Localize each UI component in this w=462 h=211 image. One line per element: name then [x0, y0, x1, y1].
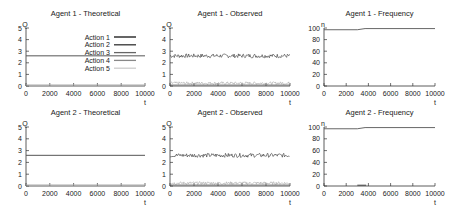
x-tick-label: 4000 — [66, 190, 82, 197]
panel-a1-theo: Agent 1 - Theoretical0123450200040006000… — [18, 9, 155, 106]
x-axis-label: t — [289, 199, 291, 206]
x-tick-label: 6000 — [90, 90, 106, 97]
y-axis-label: Q — [22, 120, 28, 128]
series-other-actions — [170, 82, 290, 85]
x-tick-label: 10000 — [135, 190, 155, 197]
x-tick-label: 6000 — [234, 90, 250, 97]
panel-title: Agent 2 - Frequency — [346, 108, 414, 117]
panel-title: Agent 1 - Observed — [197, 9, 262, 18]
x-tick-label: 0 — [24, 190, 28, 197]
legend-label: Action 1 — [85, 34, 110, 41]
legend-label: Action 2 — [85, 41, 110, 48]
y-tick-label: 4 — [162, 36, 166, 43]
x-tick-label: 10000 — [425, 190, 445, 197]
x-tick-label: 2000 — [338, 190, 354, 197]
legend: Action 1Action 2Action 3Action 4Action 5 — [85, 34, 136, 72]
y-tick-label: 1 — [162, 171, 166, 178]
y-tick-label: 2 — [162, 159, 166, 166]
y-tick-label: 20 — [312, 171, 320, 178]
y-tick-label: 4 — [18, 135, 22, 142]
y-axis-label: Q — [166, 21, 172, 29]
y-tick-label: 1 — [18, 171, 22, 178]
panel-a2-theo: Agent 2 - Theoretical0123450200040006000… — [18, 108, 155, 206]
y-tick-label: 0 — [18, 83, 22, 90]
y-tick-label: 2 — [18, 59, 22, 66]
x-tick-label: 2000 — [186, 190, 202, 197]
x-tick-label: 4000 — [210, 190, 226, 197]
x-tick-label: 10000 — [135, 90, 155, 97]
y-tick-label: 4 — [162, 135, 166, 142]
x-tick-label: 10000 — [425, 90, 445, 97]
y-tick-label: 3 — [18, 147, 22, 154]
x-tick-label: 8000 — [258, 90, 274, 97]
y-tick-label: 80 — [312, 36, 320, 43]
x-axis-label: t — [434, 99, 436, 106]
x-tick-label: 4000 — [66, 90, 82, 97]
panel-a2-freq: Agent 2 - Frequency020406080100020004000… — [308, 108, 445, 206]
y-tick-label: 20 — [312, 71, 320, 78]
x-tick-label: 8000 — [113, 190, 129, 197]
y-tick-label: 2 — [18, 159, 22, 166]
y-tick-label: 40 — [312, 159, 320, 166]
x-tick-label: 8000 — [405, 190, 421, 197]
panel-title: Agent 1 - Theoretical — [51, 9, 121, 18]
y-tick-label: 0 — [316, 83, 320, 90]
y-tick-label: 2 — [162, 59, 166, 66]
x-tick-label: 6000 — [383, 190, 399, 197]
x-tick-label: 4000 — [361, 190, 377, 197]
panel-title: Agent 1 - Frequency — [346, 9, 414, 18]
y-tick-label: 0 — [316, 183, 320, 190]
x-tick-label: 4000 — [210, 90, 226, 97]
y-axis-label: Q — [22, 21, 28, 29]
y-tick-label: 4 — [18, 36, 22, 43]
series-action-1 — [170, 153, 290, 157]
x-axis-label: t — [289, 99, 291, 106]
y-tick-label: 1 — [18, 71, 22, 78]
x-tick-label: 0 — [168, 90, 172, 97]
x-axis-label: t — [144, 99, 146, 106]
y-tick-label: 100 — [308, 124, 320, 131]
x-tick-label: 6000 — [383, 90, 399, 97]
x-tick-label: 6000 — [234, 190, 250, 197]
y-tick-label: 80 — [312, 135, 320, 142]
x-tick-label: 6000 — [90, 190, 106, 197]
y-tick-label: 0 — [162, 83, 166, 90]
y-tick-label: 0 — [18, 183, 22, 190]
y-tick-label: 60 — [312, 48, 320, 55]
x-tick-label: 0 — [168, 190, 172, 197]
panel-a2-obs: Agent 2 - Observed0123450200040006000800… — [162, 108, 300, 206]
panel-a1-freq: Agent 1 - Frequency020406080100020004000… — [308, 9, 445, 106]
figure: Agent 1 - Theoretical0123450200040006000… — [0, 0, 462, 211]
series-line — [324, 128, 435, 129]
panel-title: Agent 2 - Observed — [197, 108, 262, 117]
x-axis-label: t — [434, 199, 436, 206]
panel-a1-obs: Agent 1 - Observed0123450200040006000800… — [162, 9, 300, 106]
legend-label: Action 3 — [85, 49, 110, 56]
x-axis-label: t — [144, 199, 146, 206]
x-tick-label: 4000 — [361, 90, 377, 97]
x-tick-label: 0 — [322, 90, 326, 97]
panel-title: Agent 2 - Theoretical — [51, 108, 121, 117]
y-axis-label: Q — [166, 120, 172, 128]
x-tick-label: 10000 — [280, 90, 300, 97]
y-tick-label: 1 — [162, 71, 166, 78]
legend-label: Action 5 — [85, 65, 110, 72]
y-tick-label: 40 — [312, 59, 320, 66]
y-tick-label: 3 — [18, 48, 22, 55]
x-tick-label: 8000 — [258, 190, 274, 197]
x-tick-label: 0 — [24, 90, 28, 97]
x-tick-label: 8000 — [405, 90, 421, 97]
y-tick-label: 3 — [162, 48, 166, 55]
series-other-actions — [170, 182, 290, 185]
x-tick-label: 2000 — [42, 90, 58, 97]
y-axis-label: n — [321, 120, 325, 127]
series-line — [324, 29, 435, 30]
y-tick-label: 100 — [308, 25, 320, 32]
series-action-1 — [170, 54, 290, 58]
x-tick-label: 2000 — [186, 90, 202, 97]
x-tick-label: 8000 — [113, 90, 129, 97]
legend-label: Action 4 — [85, 57, 110, 64]
x-tick-label: 2000 — [42, 190, 58, 197]
x-tick-label: 2000 — [338, 90, 354, 97]
y-tick-label: 3 — [162, 147, 166, 154]
